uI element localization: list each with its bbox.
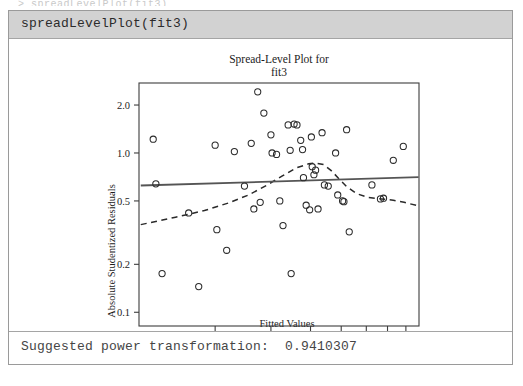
- data-point: [248, 140, 254, 146]
- r-console-panel: spreadLevelPlot(fit3) Spread-Level Plot …: [8, 10, 513, 365]
- plot-region: Spread-Level Plot for fit3 Absolute Stud…: [9, 39, 512, 333]
- plot-frame: [139, 83, 419, 326]
- data-point: [400, 143, 406, 149]
- data-point: [299, 147, 305, 153]
- data-point: [212, 142, 218, 148]
- plot-title: Spread-Level Plot for: [229, 53, 329, 66]
- data-point: [196, 283, 202, 289]
- data-point: [321, 182, 327, 188]
- plot-subtitle: fit3: [271, 66, 287, 78]
- x-axis-label: Fitted Values: [260, 318, 315, 329]
- data-point: [390, 157, 396, 163]
- data-point: [186, 210, 192, 216]
- data-point: [325, 183, 331, 189]
- console-output-bar: Suggested power transformation: 0.941030…: [9, 331, 512, 364]
- data-point: [335, 192, 341, 198]
- data-point: [257, 199, 263, 205]
- output-label: Suggested power transformation:: [21, 339, 269, 354]
- clipped-prompt-text: > spreadLevelPlot(fit3): [18, 0, 168, 6]
- y-tick-label: 1.0: [117, 148, 130, 159]
- smooth-curve-path: [141, 163, 419, 225]
- data-point: [268, 132, 274, 138]
- data-point: [344, 127, 350, 133]
- data-point: [241, 183, 247, 189]
- y-tick-label: 0.2: [117, 259, 130, 270]
- command-echo-bar: spreadLevelPlot(fit3): [9, 11, 512, 39]
- y-tick-label: 2.0: [117, 100, 130, 111]
- data-point: [251, 206, 257, 212]
- data-point: [280, 223, 286, 229]
- data-point: [287, 147, 293, 153]
- y-axis-label: Absolute Studentized Residuals: [106, 184, 117, 318]
- data-point: [150, 136, 156, 142]
- data-point: [288, 270, 294, 276]
- data-point: [261, 110, 267, 116]
- data-point: [224, 247, 230, 253]
- data-point: [315, 206, 321, 212]
- least-squares-line: [141, 177, 419, 185]
- y-tick-label: 0.1: [117, 307, 130, 318]
- fit-line-path: [141, 177, 419, 185]
- data-point: [319, 130, 325, 136]
- y-tick-label: 0.5: [117, 196, 130, 207]
- data-point: [285, 122, 291, 128]
- data-point: [277, 198, 283, 204]
- scatter-points: [150, 89, 406, 290]
- data-point: [298, 137, 304, 143]
- output-text: Suggested power transformation: 0.941030…: [21, 339, 357, 354]
- y-axis-ticks: 0.10.20.51.02.0: [117, 100, 139, 318]
- data-point: [153, 181, 159, 187]
- data-point: [159, 270, 165, 276]
- data-point: [346, 229, 352, 235]
- output-value: 0.9410307: [285, 339, 357, 354]
- data-point: [307, 207, 313, 213]
- command-text: spreadLevelPlot(fit3): [21, 16, 189, 31]
- spread-level-plot: Spread-Level Plot for fit3 Absolute Stud…: [9, 39, 514, 333]
- lowess-smooth-curve: [141, 163, 419, 225]
- data-point: [369, 182, 375, 188]
- data-point: [255, 89, 261, 95]
- data-point: [308, 134, 314, 140]
- data-point: [214, 227, 220, 233]
- data-point: [333, 150, 339, 156]
- data-point: [231, 149, 237, 155]
